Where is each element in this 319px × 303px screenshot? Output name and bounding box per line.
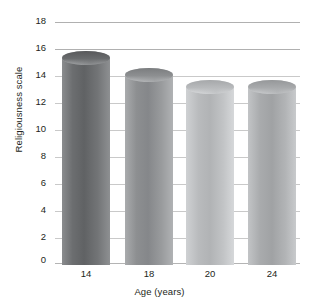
x-tick-label: 24: [248, 268, 296, 279]
bar-chart: Religiousness scale 18 16 14 12 10 8 6 4…: [0, 0, 319, 303]
y-tick-label: 14: [0, 70, 46, 80]
bar-body: [248, 87, 296, 265]
bar-age-18: [125, 68, 173, 265]
gridline-18: [55, 22, 300, 23]
y-tick-label: 18: [0, 16, 46, 26]
bar-cap-shadow: [248, 80, 296, 94]
bar-age-24: [248, 80, 296, 265]
y-tick-label: 16: [0, 43, 46, 53]
y-tick-label: 4: [0, 205, 46, 215]
bar-body: [186, 87, 234, 265]
bar-cap-shadow: [125, 68, 173, 82]
y-tick-label: 0: [0, 255, 46, 265]
x-tick-label: 14: [62, 268, 110, 279]
x-tick-label: 20: [186, 268, 234, 279]
y-tick-label: 6: [0, 178, 46, 188]
bar-age-20: [186, 80, 234, 265]
gridline-16: [55, 49, 300, 50]
y-tick-label: 8: [0, 151, 46, 161]
y-tick-label: 10: [0, 124, 46, 134]
x-axis-title: Age (years): [0, 286, 319, 297]
x-tick-label: 18: [125, 268, 173, 279]
bar-cap-shadow: [186, 80, 234, 94]
bar-age-14: [62, 51, 110, 265]
y-axis-tick-labels: 18 16 14 12 10 8 6 4 2 0: [0, 0, 52, 303]
y-tick-label: 12: [0, 97, 46, 107]
bar-body: [125, 75, 173, 265]
bar-cap-shadow: [62, 51, 110, 65]
y-tick-label: 2: [0, 232, 46, 242]
x-axis-tick-labels: 14 18 20 24: [55, 268, 300, 284]
plot-area: [55, 20, 300, 265]
bar-body: [62, 58, 110, 265]
